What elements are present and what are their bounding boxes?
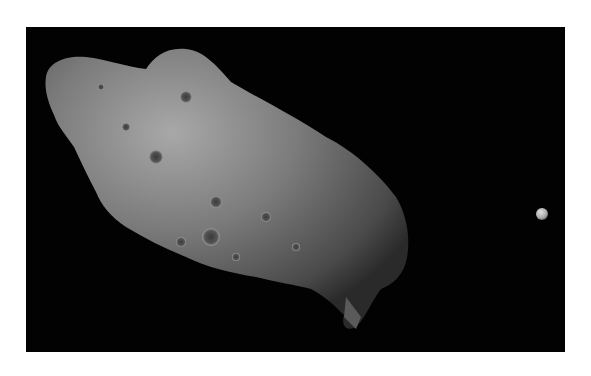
space-photo <box>26 27 565 352</box>
asteroid-scene <box>26 27 565 352</box>
asteroid <box>45 49 408 329</box>
moon <box>536 208 548 220</box>
